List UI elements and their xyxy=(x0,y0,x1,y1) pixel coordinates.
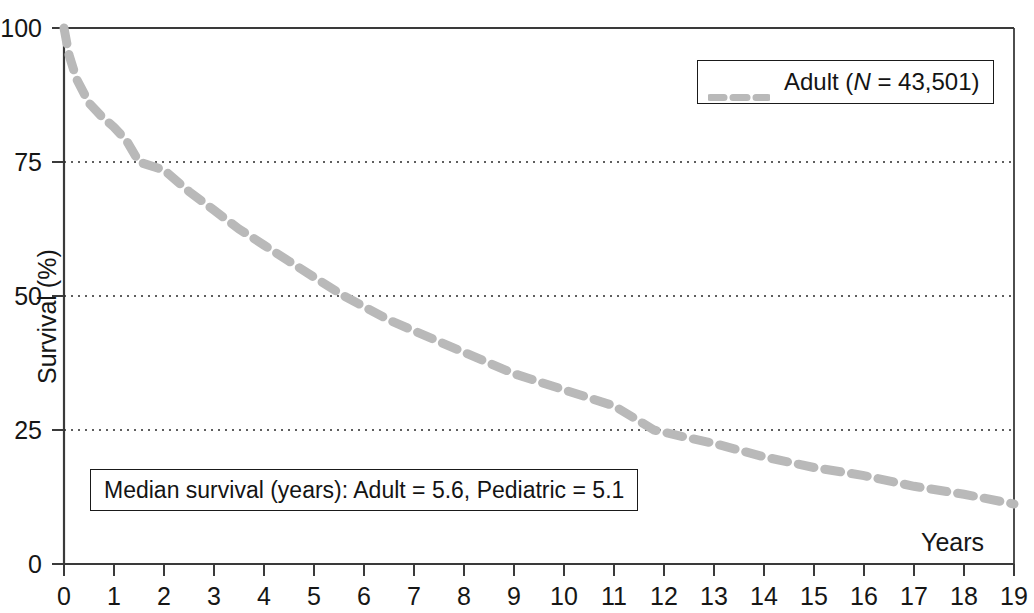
x-tick-label-7: 7 xyxy=(407,584,421,609)
x-tick-label-18: 18 xyxy=(950,584,978,609)
x-tick-label-2: 2 xyxy=(157,584,171,609)
x-axis-ticks xyxy=(64,564,1014,576)
x-tick-label-8: 8 xyxy=(457,584,471,609)
y-tick-label-25: 25 xyxy=(0,418,42,443)
legend-entry-n-symbol: N xyxy=(853,68,870,95)
annotation-text: Median survival (years): Adult = 5.6, Pe… xyxy=(104,477,624,504)
x-tick-label-9: 9 xyxy=(507,584,521,609)
x-tick-label-1: 1 xyxy=(107,584,121,609)
x-tick-label-16: 16 xyxy=(850,584,878,609)
y-tick-label-0: 0 xyxy=(0,552,42,577)
x-tick-label-15: 15 xyxy=(800,584,828,609)
x-axis-title: Years xyxy=(921,528,984,557)
x-tick-label-6: 6 xyxy=(357,584,371,609)
x-tick-label-11: 11 xyxy=(601,584,627,609)
y-tick-label-75: 75 xyxy=(0,150,42,175)
legend-entry-label: Adult (N = 43,501) xyxy=(784,68,979,96)
y-tick-label-100: 100 xyxy=(0,16,42,41)
x-tick-label-5: 5 xyxy=(307,584,321,609)
x-tick-label-3: 3 xyxy=(207,584,221,609)
annotation-box: Median survival (years): Adult = 5.6, Pe… xyxy=(90,469,638,511)
legend-entry-suffix: = 43,501) xyxy=(871,68,980,95)
y-axis-title: Survival (%) xyxy=(33,249,62,384)
legend: Adult (N = 43,501) xyxy=(697,60,994,104)
x-tick-label-13: 13 xyxy=(700,584,728,609)
x-tick-label-17: 17 xyxy=(900,584,928,609)
x-tick-label-12: 12 xyxy=(650,584,678,609)
x-tick-label-19: 19 xyxy=(1000,584,1028,609)
x-tick-label-10: 10 xyxy=(550,584,578,609)
x-tick-label-4: 4 xyxy=(257,584,271,609)
legend-dash-swatch-icon xyxy=(708,79,770,86)
x-tick-label-14: 14 xyxy=(750,584,778,609)
x-tick-label-0: 0 xyxy=(57,584,71,609)
survival-chart: 100 75 50 25 0 0123456789101112131415161… xyxy=(0,0,1034,613)
legend-entry-prefix: Adult ( xyxy=(784,68,853,95)
